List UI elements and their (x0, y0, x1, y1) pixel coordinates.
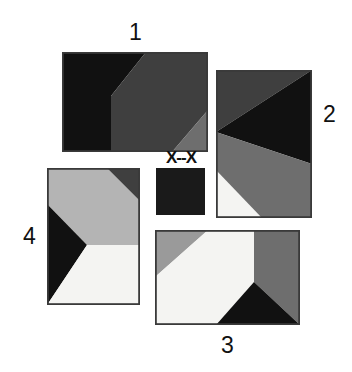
figure-canvas: 1234X--X (0, 0, 352, 372)
panel-2-label: 2 (323, 103, 336, 126)
center-tile (156, 168, 205, 215)
center-tile-label: X--X (166, 149, 196, 166)
panel-2 (216, 70, 312, 218)
panel-1 (62, 52, 208, 152)
panel-1-label: 1 (129, 21, 142, 44)
panel-3 (155, 230, 300, 325)
panel-4-label: 4 (23, 225, 36, 248)
panel-3-label: 3 (221, 334, 234, 357)
panel-4 (47, 168, 140, 305)
